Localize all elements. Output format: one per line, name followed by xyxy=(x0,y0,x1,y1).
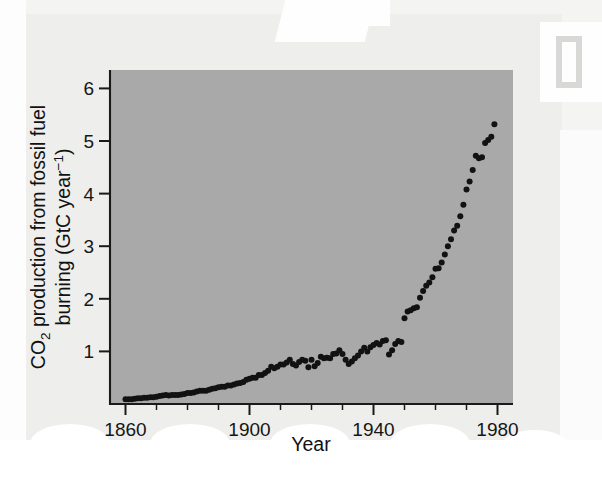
y-tick-label: 1 xyxy=(83,341,94,362)
data-point xyxy=(454,223,460,229)
y-tick-label: 4 xyxy=(83,184,94,205)
y-axis-tick-labels: 123456 xyxy=(83,78,94,362)
x-axis-ticks xyxy=(126,404,498,415)
data-point xyxy=(442,252,448,258)
y-axis-title-group: CO2 production from fossil fuel burning … xyxy=(27,105,74,369)
data-point xyxy=(439,260,445,266)
figure-page: 1860190019401980 123456 Year CO2 product… xyxy=(0,0,602,483)
x-tick-label: 1940 xyxy=(352,419,394,440)
data-point xyxy=(340,351,346,357)
y-tick-label: 5 xyxy=(83,131,94,152)
x-tick-label: 1980 xyxy=(476,419,518,440)
y-axis-title-paren: ) xyxy=(52,149,74,156)
co2-emissions-chart: 1860190019401980 123456 Year CO2 product… xyxy=(0,0,602,483)
y-tick-label: 2 xyxy=(83,289,94,310)
data-point xyxy=(420,288,426,294)
x-axis-title: Year xyxy=(291,433,331,455)
data-point xyxy=(402,315,408,321)
y-axis-title-subscript: 2 xyxy=(38,332,53,340)
data-point xyxy=(383,337,389,343)
chart-svg: 1860190019401980 123456 Year CO2 product… xyxy=(0,0,602,483)
data-point xyxy=(479,154,485,160)
x-tick-label: 1900 xyxy=(228,419,270,440)
y-axis-title-superscript: −1 xyxy=(51,155,66,170)
data-point xyxy=(389,347,395,353)
x-tick-label: 1860 xyxy=(104,419,146,440)
data-point xyxy=(417,295,423,301)
data-point xyxy=(398,339,404,345)
data-point xyxy=(445,243,451,249)
y-axis-title-line1: CO2 production from fossil fuel xyxy=(27,105,53,369)
data-point xyxy=(429,274,435,280)
y-tick-label: 3 xyxy=(83,236,94,257)
y-axis-title-rest: production from fossil fuel xyxy=(27,105,49,333)
y-axis-title-co2: CO xyxy=(27,340,49,369)
data-point xyxy=(302,358,308,364)
data-point xyxy=(457,213,463,219)
data-point xyxy=(448,236,454,242)
data-point xyxy=(436,265,442,271)
data-point xyxy=(309,357,315,363)
y-axis-ticks xyxy=(99,88,110,351)
data-point xyxy=(414,304,420,310)
data-point xyxy=(426,280,432,286)
data-point xyxy=(488,134,494,140)
data-point xyxy=(305,364,311,370)
y-axis-title-units: burning (GtC year xyxy=(52,170,74,325)
y-tick-label: 6 xyxy=(83,78,94,99)
data-point xyxy=(315,360,321,366)
data-point xyxy=(467,179,473,185)
data-point xyxy=(470,167,476,173)
data-point xyxy=(464,186,470,192)
y-axis-title-line2: burning (GtC year−1) xyxy=(51,149,74,326)
data-point xyxy=(460,202,466,208)
data-point xyxy=(491,121,497,127)
